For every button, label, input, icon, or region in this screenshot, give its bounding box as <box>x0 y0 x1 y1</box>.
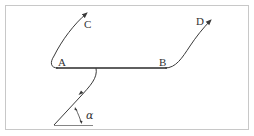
label-point-D: D <box>196 15 204 27</box>
trajectory-diagram: A B C D α <box>0 0 254 136</box>
label-point-A: A <box>58 56 66 68</box>
label-angle-alpha: α <box>86 109 94 122</box>
label-point-B: B <box>159 56 166 68</box>
diagram-canvas: A B C D α <box>0 0 254 136</box>
label-point-C: C <box>84 18 91 30</box>
